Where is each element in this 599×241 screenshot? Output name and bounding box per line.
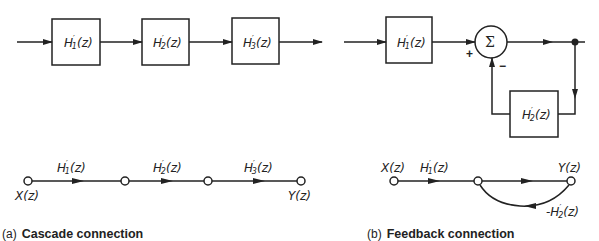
caption-b: (b)Feedback connection — [367, 227, 514, 241]
branch-h2-arrow-icon — [161, 178, 173, 184]
cascade-flowgraph — [24, 177, 305, 185]
output-label: Y(z) — [288, 189, 311, 203]
output-label: Y(z) — [558, 161, 581, 175]
branch-h1-label: H′1(z) — [57, 160, 86, 176]
branch-h3-arrow-icon — [253, 178, 265, 184]
minus-sign: − — [499, 59, 506, 73]
block-forward-h1-label: H′1(z) — [397, 35, 426, 51]
block-h3-label: H′3(z) — [243, 35, 272, 51]
branch-h1-arrow-icon — [72, 178, 84, 184]
branch-h3-label: H′3(z) — [244, 160, 273, 176]
branch-forward-arrow-icon — [428, 178, 440, 184]
plus-sign: + — [466, 47, 473, 61]
branch-point-dot — [572, 39, 579, 46]
branch-feedback-label: -H′2(z) — [546, 204, 579, 220]
sigma-symbol: Σ — [485, 34, 495, 50]
node-output — [297, 177, 305, 185]
diagram-canvas: H′1(z) H′2(z) H′3(z) H′1(z) H′2(z) H′3(z… — [0, 0, 599, 241]
node-input — [24, 177, 32, 185]
branch-feedback — [480, 185, 569, 206]
branch-feedback-arrow-icon — [524, 203, 536, 209]
branch-forward-label: H′1(z) — [420, 160, 449, 176]
feedback-line-right — [558, 98, 575, 114]
caption-a: (a)Cascade connection — [2, 227, 143, 241]
block-feedback-h2-label: H′2(z) — [522, 107, 551, 123]
node-1 — [121, 177, 129, 185]
block-h1-label: H′1(z) — [64, 35, 93, 51]
node-output — [567, 177, 575, 185]
branch-unity-arrow-icon — [521, 178, 533, 184]
input-label: X(z) — [14, 189, 39, 203]
feedback-line-left — [492, 72, 510, 114]
node-input — [390, 177, 398, 185]
block-h2-label: H′2(z) — [153, 35, 182, 51]
branch-h2-label: H′2(z) — [153, 160, 182, 176]
node-mid — [474, 177, 482, 185]
node-2 — [204, 177, 212, 185]
input-label: X(z) — [380, 161, 405, 175]
